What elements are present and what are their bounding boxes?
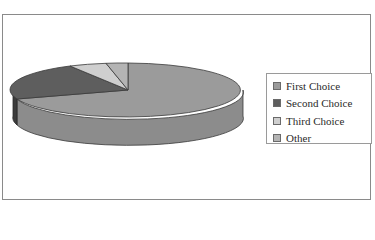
legend-swatch-other (273, 134, 281, 142)
legend-item-first-choice: First Choice (267, 77, 371, 95)
chart-legend: First Choice Second Choice Third Choice … (266, 73, 372, 144)
legend-item-second-choice: Second Choice (267, 95, 371, 113)
legend-swatch-third-choice (273, 117, 281, 125)
legend-label: First Choice (286, 80, 340, 92)
legend-item-third-choice: Third Choice (267, 112, 371, 130)
legend-label: Third Choice (286, 115, 344, 127)
legend-label: Other (286, 132, 311, 144)
legend-item-other: Other (267, 130, 371, 148)
legend-label: Second Choice (286, 97, 352, 109)
legend-swatch-first-choice (273, 82, 281, 90)
legend-swatch-second-choice (273, 99, 281, 107)
